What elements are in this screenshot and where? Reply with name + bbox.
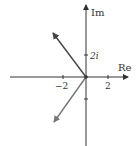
real-tick-label-neg2: −2 [55,81,68,91]
upper-left-vector [53,33,86,77]
imag-tick-label-2i: 2i [89,51,99,61]
imag-axis-label: Im [91,7,105,18]
real-tick-label-pos2: 2 [105,81,111,91]
origin-point [84,75,88,79]
real-axis-label: Re [118,62,132,73]
complex-plane-diagram: Im Re 2i −2 2 [0,0,137,146]
